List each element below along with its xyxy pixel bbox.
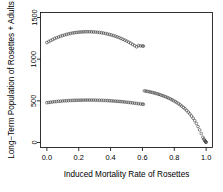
x-tick-label: 0.0 [42,153,52,162]
x-tick-label: 0.6 [137,153,147,162]
data-point [158,93,161,96]
y-tick-label: 0 [30,140,39,144]
data-point [198,129,201,132]
axis-layer [37,13,213,152]
axis-labels-layer: 0.00.20.40.60.81.0050010001500Induced Mo… [7,1,212,179]
series-upper-branch [46,30,145,48]
chart-figure: 0.00.20.40.60.81.0050010001500Induced Mo… [0,0,223,192]
x-tick-label: 1.0 [201,153,211,162]
x-tick-label: 0.4 [105,153,115,162]
y-axis-title: Long−Term Population of Rosettes + Adult… [7,1,16,158]
data-point [193,119,196,122]
x-axis-title: Induced Mortality Rate of Rosettes [64,170,190,179]
y-tick-label: 500 [30,95,39,107]
data-point [161,94,164,97]
data-point [192,117,195,120]
x-tick-label: 0.2 [74,153,84,162]
data-point [195,122,198,125]
x-tick-label: 0.8 [169,153,179,162]
data-point [159,94,162,97]
data-point [200,132,203,135]
scatter-plot: 0.00.20.40.60.81.0050010001500Induced Mo… [0,0,223,192]
data-point [185,109,188,112]
data-points-layer [46,30,208,143]
y-tick-label: 1000 [30,51,39,67]
series-descending-branch [143,89,207,143]
data-point [197,125,200,128]
series-lower-branch-left [46,99,145,106]
plot-frame [41,13,213,148]
y-tick-label: 1500 [30,9,39,25]
